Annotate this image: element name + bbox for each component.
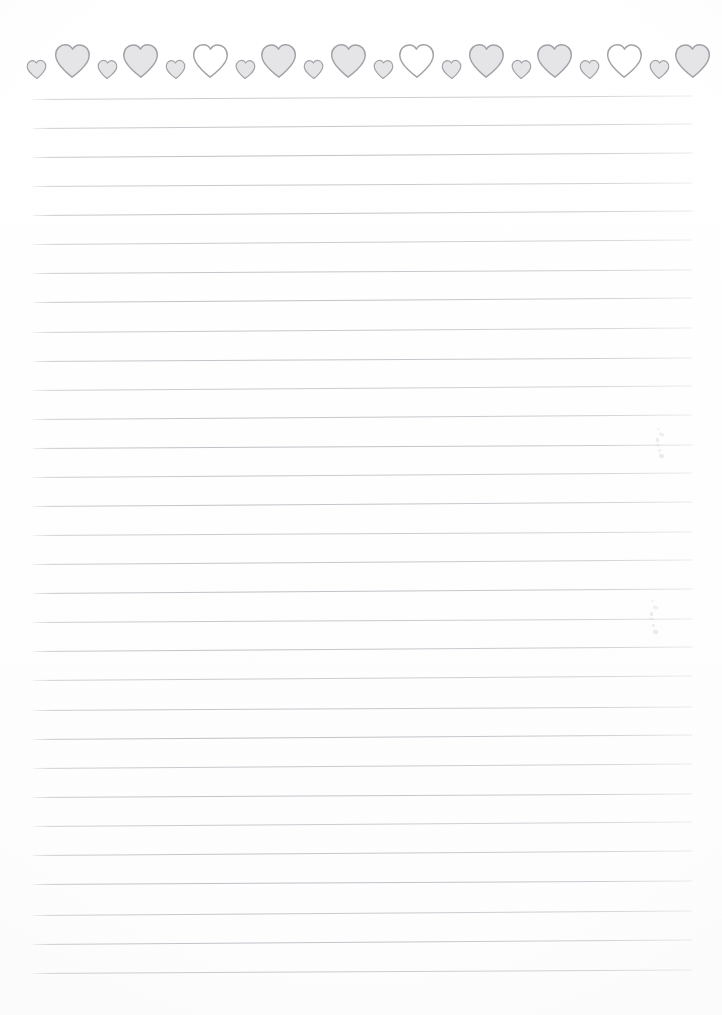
lined-paper-page (0, 0, 722, 1015)
writing-area[interactable] (33, 90, 692, 990)
